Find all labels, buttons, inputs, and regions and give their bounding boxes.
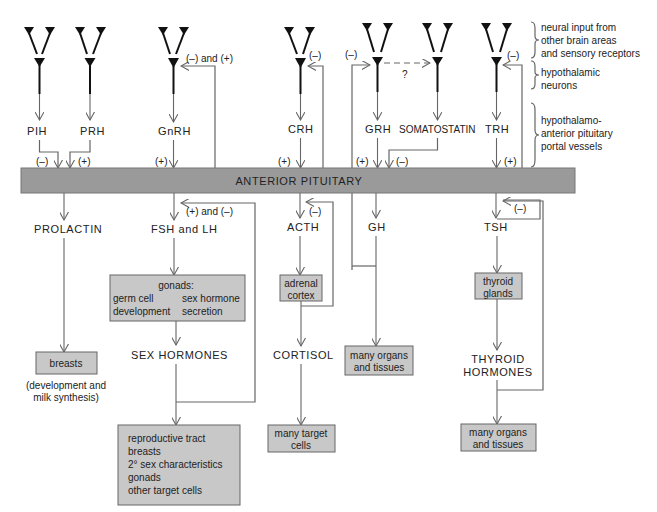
- label-sex-hormones: SEX HORMONES: [131, 349, 228, 361]
- legend-hypothalamic-neurons: hypothalamic neurons: [541, 67, 600, 91]
- svg-text:germ cell: germ cell: [113, 293, 154, 304]
- legend-neural-input: neural input from other brain areas and …: [541, 22, 640, 59]
- target-sex-hormones: reproductive tract breasts 2° sex charac…: [118, 425, 240, 505]
- label-thyroid-hormones-1: THYROID: [471, 353, 525, 365]
- svg-text:secretion: secretion: [182, 306, 223, 317]
- svg-text:gonads: gonads: [128, 472, 161, 483]
- label-crh: CRH: [288, 123, 314, 135]
- neuron-somatostatin: [422, 23, 453, 120]
- label-trh: TRH: [485, 123, 509, 135]
- svg-text:thyroid: thyroid: [483, 276, 513, 287]
- svg-text:hypothalamo-: hypothalamo-: [541, 115, 602, 126]
- svg-text:breasts: breasts: [128, 446, 161, 457]
- target-thyroid-hormones: many organs and tissues: [461, 424, 536, 451]
- feedback-grh-sign: (–): [345, 49, 357, 60]
- label-somatostatin: SOMATOSTATIN: [399, 124, 475, 135]
- anterior-pituitary-label: ANTERIOR PITUITARY: [235, 175, 362, 187]
- svg-text:and sensory receptors: and sensory receptors: [541, 48, 640, 59]
- svg-text:hypothalamic: hypothalamic: [541, 67, 600, 78]
- svg-text:other brain areas: other brain areas: [541, 35, 617, 46]
- sign-trh: (+): [504, 156, 517, 167]
- svg-text:2° sex characteristics: 2° sex characteristics: [128, 459, 223, 470]
- svg-text:development: development: [113, 306, 170, 317]
- svg-text:many organs: many organs: [469, 427, 527, 438]
- svg-text:(development and: (development and: [26, 380, 106, 391]
- label-grh: GRH: [365, 123, 391, 135]
- neuron-gnrh: [158, 27, 189, 122]
- sign-grh: (+): [356, 156, 369, 167]
- anterior-pituitary-bar: ANTERIOR PITUITARY: [21, 168, 575, 193]
- neuron-grh: [362, 23, 393, 120]
- neuron-trh: [481, 23, 512, 120]
- label-fsh-lh: FSH and LH: [151, 223, 218, 235]
- feedback-gnrh-sign: (–) and (+): [186, 53, 233, 64]
- label-thyroid-hormones-2: HORMONES: [463, 366, 533, 378]
- question-mark: ?: [402, 69, 408, 80]
- svg-text:many target: many target: [275, 428, 328, 439]
- svg-text:adrenal: adrenal: [284, 278, 317, 289]
- svg-text:glands: glands: [483, 288, 512, 299]
- target-gonads: gonads: germ cell development sex hormon…: [110, 275, 245, 321]
- sign-pih: (–): [36, 156, 48, 167]
- target-thyroid-glands: thyroid glands: [475, 273, 522, 299]
- feedback-tsh-sign: (–): [514, 203, 526, 214]
- label-gh: GH: [368, 221, 386, 233]
- svg-text:other target cells: other target cells: [128, 485, 202, 496]
- target-breasts: breasts: [36, 352, 97, 374]
- sign-prh: (+): [78, 156, 91, 167]
- neuron-pih: [24, 27, 55, 120]
- hypothalamic-pituitary-diagram: ? PIH PRH GnRH CRH GRH SOMATOSTATIN TRH …: [0, 0, 657, 512]
- neuron-prh: [75, 27, 106, 120]
- label-acth: ACTH: [287, 221, 319, 233]
- svg-text:gonads:: gonads:: [158, 280, 194, 291]
- label-tsh: TSH: [484, 221, 508, 233]
- svg-text:neurons: neurons: [541, 80, 577, 91]
- sign-somatostatin: (–): [396, 156, 408, 167]
- feedback-trh-sign: (–): [507, 50, 519, 61]
- label-pih: PIH: [27, 125, 47, 137]
- svg-text:anterior pituitary: anterior pituitary: [541, 128, 613, 139]
- svg-text:sex hormone: sex hormone: [182, 293, 240, 304]
- svg-text:breasts: breasts: [50, 358, 83, 369]
- svg-text:portal vessels: portal vessels: [541, 141, 602, 152]
- svg-text:and tissues: and tissues: [354, 362, 405, 373]
- neuron-crh: [284, 27, 315, 120]
- label-gnrh: GnRH: [158, 125, 191, 137]
- sign-gnrh: (+): [155, 156, 168, 167]
- breasts-note: (development and milk synthesis): [26, 380, 106, 403]
- target-adrenal-cortex: adrenal cortex: [280, 275, 322, 301]
- legend-portal-vessels: hypothalamo- anterior pituitary portal v…: [541, 115, 613, 152]
- svg-text:many organs: many organs: [350, 350, 408, 361]
- feedback-acth-sign: (–): [309, 206, 321, 217]
- feedback-crh-sign: (–): [309, 50, 321, 61]
- svg-text:and tissues: and tissues: [473, 439, 524, 450]
- svg-text:neural input from: neural input from: [541, 22, 616, 33]
- label-prolactin: PROLACTIN: [34, 223, 102, 235]
- target-gh: many organs and tissues: [345, 346, 413, 375]
- label-cortisol: CORTISOL: [273, 349, 334, 361]
- target-cortisol: many target cells: [268, 425, 335, 452]
- svg-text:cortex: cortex: [287, 290, 314, 301]
- feedback-fsh-sign: (+) and (–): [186, 206, 233, 217]
- label-prh: PRH: [80, 125, 105, 137]
- svg-text:reproductive tract: reproductive tract: [128, 433, 205, 444]
- sign-crh: (+): [278, 156, 291, 167]
- svg-text:milk synthesis): milk synthesis): [33, 392, 99, 403]
- svg-text:cells: cells: [291, 440, 311, 451]
